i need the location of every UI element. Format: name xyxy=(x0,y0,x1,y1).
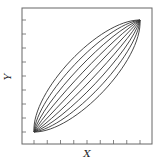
x-axis-label: X xyxy=(82,148,91,159)
chart: X Y xyxy=(0,0,162,163)
y-axis-label: Y xyxy=(2,72,13,80)
x-axis-ticks xyxy=(34,140,140,144)
y-axis-ticks xyxy=(22,20,26,132)
curve-family xyxy=(34,20,140,132)
curve-curve-5 xyxy=(34,20,140,132)
